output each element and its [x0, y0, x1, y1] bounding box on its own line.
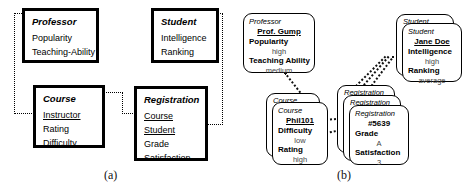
object-course-id: Phil101: [278, 116, 322, 126]
caption-b: (b): [337, 168, 351, 182]
schema-attr-registration-grade: Grade: [144, 137, 198, 151]
schema-attr-course-rating: Rating: [43, 122, 95, 136]
schema-entity-registration-title: Registration: [144, 93, 198, 106]
schema-attr-student-intelligence: Intelligence: [161, 31, 209, 45]
object-student-attr-intelligence: Intelligence: [408, 47, 456, 57]
object-registration-id: #5639: [355, 119, 403, 129]
object-student-attr-ranking: Ranking: [408, 66, 456, 76]
object-professor-attr-teaching-ability: Teaching Ability: [249, 56, 309, 66]
object-card-stack-student[interactable]: Student Student Jane Doe Intelligence hi…: [396, 14, 462, 82]
schema-attr-course-instructor: Instructor: [43, 108, 95, 122]
object-registration-class: Registration: [355, 109, 403, 119]
object-card-registration-front: Registration #5639 Grade A Satisfaction …: [349, 105, 409, 165]
caption-a: (a): [104, 168, 117, 182]
object-registration-attr-satisfaction: Satisfaction: [355, 148, 403, 158]
object-card-professor-body: Professor Prof. Gump Popularity high Tea…: [243, 13, 315, 73]
schema-attr-registration-student: Student: [144, 123, 198, 137]
object-student-id: Jane Doe: [408, 37, 456, 47]
schema-attr-registration-course: Course: [144, 109, 198, 123]
schema-entity-course[interactable]: Course Instructor Rating Difficulty: [33, 85, 105, 148]
object-card-stack-registration[interactable]: Registration Registration Registration #…: [337, 85, 409, 165]
connector-student-vertical: [222, 13, 223, 125]
connector-course-vertical: [122, 92, 123, 114]
object-course-value-rating: high: [278, 155, 322, 165]
object-card-student-front: Student Jane Doe Intelligence high Ranki…: [402, 23, 462, 82]
object-professor-value-popularity: high: [249, 47, 309, 57]
schema-attr-student-ranking: Ranking: [161, 45, 209, 59]
object-registration-attr-grade: Grade: [355, 129, 403, 139]
object-registration-value-satisfaction: 3: [355, 158, 403, 168]
schema-entity-course-title: Course: [43, 92, 95, 105]
object-student-class: Student: [408, 27, 456, 37]
schema-attr-registration-satisfaction: Satisfaction: [144, 151, 198, 165]
schema-entity-student[interactable]: Student Intelligence Ranking: [151, 8, 219, 63]
connector-professor-to-course-instructor: [14, 113, 34, 114]
schema-entity-registration[interactable]: Registration Course Student Grade Satisf…: [134, 86, 208, 161]
object-professor-attr-popularity: Popularity: [249, 37, 309, 47]
object-card-professor[interactable]: Professor Prof. Gump Popularity high Tea…: [243, 13, 315, 73]
object-professor-value-teaching-ability: medium: [249, 66, 309, 76]
object-professor-class: Professor: [249, 17, 309, 27]
schema-entity-professor-title: Professor: [32, 15, 89, 28]
object-card-stack-course[interactable]: Course Course Phil101 Difficulty low Rat…: [266, 93, 328, 165]
object-course-attr-difficulty: Difficulty: [278, 126, 322, 136]
object-student-value-intelligence: high: [408, 57, 456, 67]
object-professor-id: Prof. Gump: [249, 27, 309, 37]
schema-entity-professor[interactable]: Professor Popularity Teaching-Ability: [22, 8, 99, 63]
object-course-value-difficulty: low: [278, 136, 322, 146]
schema-attr-professor-teaching-ability: Teaching-Ability: [32, 45, 89, 59]
object-course-attr-rating: Rating: [278, 145, 322, 155]
object-card-course-front: Course Phil101 Difficulty low Rating hig…: [272, 102, 328, 165]
connector-professor-vertical: [14, 13, 15, 114]
object-student-value-ranking: average: [408, 76, 456, 86]
schema-attr-course-difficulty: Difficulty: [43, 136, 95, 150]
object-registration-value-grade: A: [355, 139, 403, 149]
link-professor-to-course: [284, 72, 301, 93]
schema-entity-student-title: Student: [161, 15, 209, 28]
figure-root: Professor Popularity Teaching-Ability St…: [0, 0, 469, 195]
object-course-class: Course: [278, 106, 322, 116]
schema-attr-professor-popularity: Popularity: [32, 31, 89, 45]
